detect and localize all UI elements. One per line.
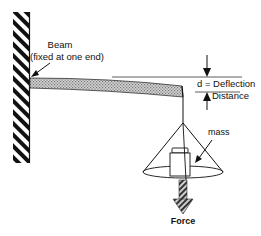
force-arrow-icon [173,180,193,214]
distance-label: Distance [212,90,249,101]
beam [30,78,183,97]
arrow-down-icon [203,68,211,77]
beam-pointer-arrow [31,63,50,77]
beam-diagram: Beam (fixed at one end) d = Deflection D… [0,0,261,236]
beam-label: Beam [48,39,73,50]
fixed-wall [13,12,30,163]
deflection-label: d = Deflection [197,78,255,89]
arrow-up-icon [203,92,211,101]
mass-pointer-arrow [195,140,212,163]
force-label: Force [171,216,196,226]
beam-sublabel: (fixed at one end) [30,51,104,62]
mass-block [170,123,190,180]
mass-label: mass [208,127,230,137]
